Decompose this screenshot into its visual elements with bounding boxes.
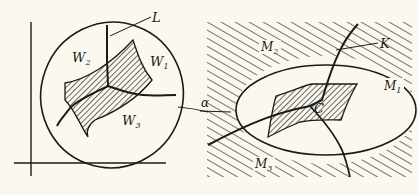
L-leader-line bbox=[110, 17, 151, 36]
L-curve-branch-top bbox=[107, 25, 108, 86]
label-M3: M3 bbox=[253, 157, 275, 173]
label-K: K bbox=[379, 36, 391, 51]
diagram-canvas: L W2 W1 W3 α K C bbox=[0, 0, 418, 195]
label-M2: M2 bbox=[259, 40, 281, 56]
label-W2: W2 bbox=[72, 50, 90, 67]
label-W1: W1 bbox=[150, 54, 168, 71]
left-panel: L W2 W1 W3 bbox=[14, 2, 204, 188]
label-L: L bbox=[151, 10, 161, 25]
label-C: C bbox=[314, 101, 324, 116]
label-W3: W3 bbox=[122, 113, 140, 130]
label-M1: M1 bbox=[382, 78, 404, 95]
right-panel: K C M2 M1 M3 bbox=[207, 22, 416, 177]
